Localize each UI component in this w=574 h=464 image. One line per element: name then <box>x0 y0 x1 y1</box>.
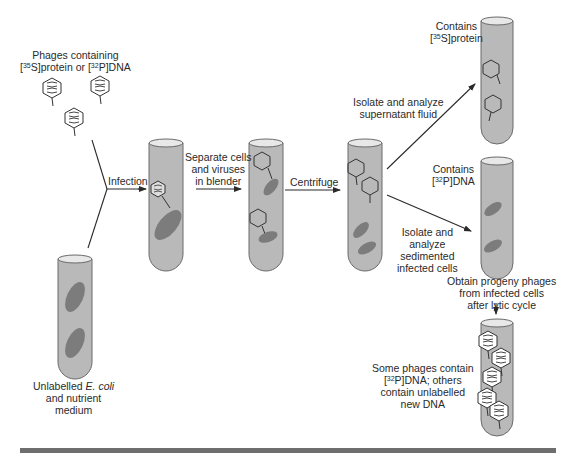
infection-tube <box>149 139 186 271</box>
ecoli-label-line3: medium <box>33 404 114 416</box>
supernatant-label: Isolate and analyze supernatant fluid <box>353 96 443 120</box>
contains-dna-label: Contains [32P]DNA <box>432 163 475 187</box>
phages-label-line1: Phages containing <box>20 49 131 61</box>
sediment-tube <box>481 157 513 279</box>
supernatant-tube <box>481 17 513 144</box>
progeny-tube <box>478 319 513 436</box>
ecoli-tube <box>58 255 92 379</box>
ecoli-label-line2: and nutrient <box>33 392 114 404</box>
centrifuge-tube <box>348 139 382 271</box>
phages-label: Phages containing [35S]protein or [32P]D… <box>20 49 131 73</box>
phage-icon-3 <box>65 108 83 136</box>
sediment-label: Isolate and analyze sedimented infected … <box>397 226 458 274</box>
merge-lines <box>88 140 140 248</box>
blender-tube <box>249 139 283 271</box>
blender-label: Separate cells and viruses in blender <box>185 151 252 187</box>
ecoli-label-line1: Unlabelled E. coli <box>33 380 114 392</box>
centrifuge-label: Centrifuge <box>290 176 338 188</box>
phage-icon-2 <box>91 76 109 104</box>
progeny-label: Obtain progeny phages from infected cell… <box>447 275 556 311</box>
ecoli-label: Unlabelled E. coli and nutrient medium <box>33 380 114 416</box>
infection-label: Infection <box>108 175 148 187</box>
phages-label-line2: [35S]protein or [32P]DNA <box>20 61 131 73</box>
contains-protein-label: Contains [35S]protein <box>430 20 483 44</box>
phage-icon-1 <box>43 78 61 106</box>
bottom-rule <box>20 448 556 453</box>
result-label: Some phages contain [32P]DNA; others con… <box>372 362 474 410</box>
